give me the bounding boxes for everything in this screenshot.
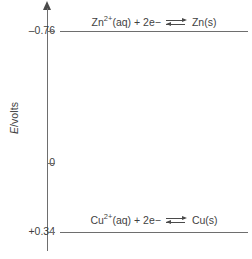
copper-product-species: Cu(s)	[192, 214, 218, 226]
potential-axis-line	[47, 8, 48, 251]
zinc-product-species: Zn(s)	[192, 16, 217, 28]
axis-tick-label-plus034: +0.34	[11, 225, 55, 237]
electrode-potential-figure: E/volts –0.76 0 +0.34 Zn2+(aq) + 2e−Zn(s…	[0, 0, 252, 259]
copper-half-equation: Cu2+(aq) + 2e−Cu(s)	[60, 212, 248, 226]
axis-tick-label-minus076: –0.76	[11, 24, 55, 36]
axis-title: E/volts	[8, 88, 20, 148]
equilibrium-arrow-icon	[166, 18, 187, 27]
zinc-half-equation: Zn2+(aq) + 2e−Zn(s)	[60, 14, 248, 28]
copper-reactant-state: (aq)	[112, 214, 131, 226]
axis-tick-mark-plus034	[48, 232, 55, 233]
axis-tick-label-zero: 0	[11, 156, 55, 168]
axis-tick-mark-minus076	[48, 31, 55, 32]
axis-tick-mark-zero	[48, 163, 55, 164]
copper-level-line	[60, 232, 248, 233]
copper-electrons: + 2e−	[134, 214, 161, 226]
axis-title-symbol: E	[8, 127, 20, 134]
zinc-level-line	[60, 31, 248, 32]
axis-title-units: /volts	[8, 102, 20, 127]
zinc-reactant-state: (aq)	[112, 16, 131, 28]
zinc-electrons: + 2e−	[134, 16, 161, 28]
zinc-reactant-species: Zn	[92, 16, 104, 28]
copper-reactant-species: Cu	[90, 214, 103, 226]
equilibrium-arrow-icon	[166, 216, 187, 225]
